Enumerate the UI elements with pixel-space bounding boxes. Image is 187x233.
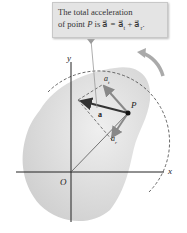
rigid-body-shape (23, 67, 151, 221)
callout-pointer-tip (87, 39, 95, 44)
tangential-label: at (104, 74, 109, 85)
callout-box: The total acceleration of point P is a⃗ … (52, 2, 168, 38)
origin-label: O (60, 177, 67, 187)
callout-line-2: of point P is a⃗ = a⃗t + a⃗r. (58, 18, 162, 34)
point-p (126, 111, 131, 116)
callout-line-1: The total acceleration (58, 6, 162, 18)
x-axis-label: x (168, 166, 172, 176)
rotation-arrowhead-icon (137, 48, 146, 58)
total-label: a⃗ (98, 110, 108, 119)
y-axis-label: y (67, 53, 71, 63)
radial-label: ar (111, 134, 117, 145)
point-p-label: P (131, 100, 137, 110)
